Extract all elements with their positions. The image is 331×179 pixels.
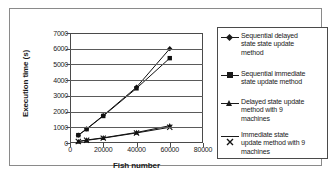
y-tick-mark [66, 127, 70, 128]
y-tick-mark [66, 80, 70, 81]
legend-label: Delayed state update method with 9 machi… [241, 98, 304, 123]
y-axis-title: Execution time (s) [21, 36, 30, 132]
chart-outer-frame: Execution time (s) 010002000300040005000… [9, 8, 322, 166]
legend-label: Immediate state update method with 9 mac… [241, 131, 305, 156]
legend-item[interactable]: Sequential immediate state update method [221, 70, 326, 87]
x-tick-mark [203, 143, 204, 147]
series-line [78, 127, 169, 141]
square-marker [101, 114, 105, 118]
cross-icon [221, 132, 239, 141]
series-line [78, 49, 169, 135]
gridline [70, 49, 203, 50]
x-tick-mark [170, 143, 171, 147]
chart-legend: Sequential delayed state state update me… [217, 27, 328, 159]
square-marker [134, 86, 138, 90]
gridline [70, 112, 203, 113]
series-0 [76, 46, 173, 138]
y-tick-mark [66, 49, 70, 50]
square-icon [221, 71, 239, 80]
x-tick-mark [70, 143, 71, 147]
y-tick-mark [66, 33, 70, 34]
plot-area [70, 33, 203, 143]
legend-item[interactable]: Sequential delayed state state update me… [221, 32, 326, 57]
triangle-icon [221, 99, 239, 108]
square-marker [76, 133, 80, 137]
x-axis-title: Fish number [70, 161, 203, 170]
y-tick-mark [66, 112, 70, 113]
diamond-icon [221, 33, 239, 42]
legend-label: Sequential immediate state update method [241, 70, 305, 87]
gridline [70, 96, 203, 97]
square-marker [168, 56, 172, 60]
legend-label: Sequential delayed state state update me… [241, 32, 298, 57]
legend-item[interactable]: Delayed state update method with 9 machi… [221, 98, 326, 123]
x-tick-mark [137, 143, 138, 147]
legend-item[interactable]: Immediate state update method with 9 mac… [221, 131, 326, 156]
gridline [70, 80, 203, 81]
gridline [70, 64, 203, 65]
y-tick-mark [66, 96, 70, 97]
gridline [70, 127, 203, 128]
y-tick-mark [66, 64, 70, 65]
x-tick-mark [103, 143, 104, 147]
